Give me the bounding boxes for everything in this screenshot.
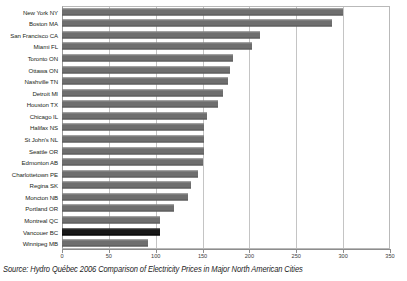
- bar: [62, 193, 188, 200]
- bar: [62, 182, 191, 189]
- bar: [62, 43, 252, 50]
- category-label: Detroit MI: [32, 89, 58, 96]
- bar: [62, 217, 160, 224]
- tick-label-100: 100: [151, 253, 160, 259]
- category-label: Ottawa ON: [29, 66, 58, 73]
- category-label: Regina SK: [30, 182, 58, 189]
- bar: [62, 89, 223, 96]
- bar: [62, 240, 148, 247]
- category-label: Houston TX: [27, 101, 58, 108]
- category-label: Chicago IL: [30, 112, 58, 119]
- category-label: Miami FL: [34, 43, 58, 50]
- chart-row: San Francisco CA: [0, 29, 407, 41]
- tick-label-0: 0: [60, 253, 63, 259]
- bar: [62, 124, 204, 131]
- tick-label-150: 150: [198, 253, 207, 259]
- bar: [62, 20, 332, 27]
- chart-row: Miami FL: [0, 41, 407, 53]
- chart-row: Charlottetown PE: [0, 168, 407, 180]
- category-label: Edmonton AB: [22, 159, 58, 166]
- chart-row: St John's NL: [0, 133, 407, 145]
- chart-row: Regina SK: [0, 180, 407, 192]
- bar-chart: New York NYBoston MASan Francisco CAMiam…: [0, 0, 407, 281]
- chart-row: Nashville TN: [0, 75, 407, 87]
- bar: [62, 136, 204, 143]
- bar: [62, 159, 203, 166]
- source-caption: Source: Hydro Québec 2006 Comparison of …: [3, 265, 303, 274]
- bar: [62, 228, 160, 235]
- category-label: San Francisco CA: [10, 31, 58, 38]
- bar: [62, 147, 204, 154]
- bar: [62, 112, 207, 119]
- bar: [62, 31, 260, 38]
- tick-label-250: 250: [292, 253, 301, 259]
- category-label: Charlottetown PE: [12, 170, 58, 177]
- category-label: Portland OR: [25, 205, 58, 212]
- chart-row: New York NY: [0, 6, 407, 18]
- chart-row: Ottawa ON: [0, 64, 407, 76]
- chart-row: Detroit MI: [0, 87, 407, 99]
- chart-row: Montreal QC: [0, 214, 407, 226]
- category-label: New York NY: [23, 8, 58, 15]
- chart-row: Houston TX: [0, 99, 407, 111]
- x-axis-line: [62, 249, 390, 250]
- bar: [62, 101, 218, 108]
- bar: [62, 170, 198, 177]
- category-label: Seattle OR: [29, 147, 58, 154]
- chart-row: Moncton NB: [0, 191, 407, 203]
- bar: [62, 55, 233, 62]
- tick-label-300: 300: [338, 253, 347, 259]
- tick-label-50: 50: [106, 253, 112, 259]
- category-label: Toronto ON: [28, 55, 58, 62]
- bar: [62, 205, 174, 212]
- chart-row: Boston MA: [0, 18, 407, 30]
- category-label: Nashville TN: [25, 78, 58, 85]
- bar-rows: New York NYBoston MASan Francisco CAMiam…: [0, 6, 407, 249]
- category-label: Montreal QC: [24, 217, 58, 224]
- category-label: Winnipeg MB: [23, 240, 58, 247]
- bar: [62, 8, 343, 15]
- category-label: Boston MA: [29, 20, 58, 27]
- tick-label-350: 350: [385, 253, 394, 259]
- category-label: Halifax NS: [30, 124, 58, 131]
- category-label: Vancouer BC: [23, 228, 58, 235]
- chart-row: Edmonton AB: [0, 156, 407, 168]
- category-label: Moncton NB: [25, 193, 58, 200]
- category-label: St John's NL: [25, 136, 58, 143]
- chart-row: Halifax NS: [0, 122, 407, 134]
- chart-row: Winnipeg MB: [0, 237, 407, 249]
- chart-row: Chicago IL: [0, 110, 407, 122]
- chart-row: Portland OR: [0, 203, 407, 215]
- chart-row: Vancouer BC: [0, 226, 407, 238]
- chart-row: Toronto ON: [0, 52, 407, 64]
- tick-label-200: 200: [245, 253, 254, 259]
- chart-row: Seattle OR: [0, 145, 407, 157]
- bar: [62, 66, 230, 73]
- bar: [62, 78, 228, 85]
